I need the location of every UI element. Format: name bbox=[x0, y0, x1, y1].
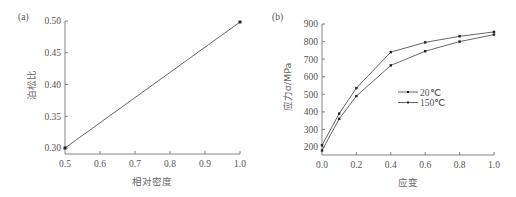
y-axis-title-b: 应力σ/MPa bbox=[282, 63, 293, 112]
x-tick-label: 0.8 bbox=[164, 159, 176, 169]
series-line-poisson bbox=[65, 22, 240, 148]
legend-label-150c: 150℃ bbox=[420, 98, 445, 108]
series-line-20c bbox=[322, 32, 494, 145]
x-tick-label: 0.9 bbox=[199, 159, 211, 169]
figure: (a) 0.30 0.35 0.40 0.45 0.50 0.5 0.6 0. bbox=[0, 0, 516, 197]
x-tick-label: 0.0 bbox=[316, 160, 328, 170]
y-tick-label: 900 bbox=[304, 19, 319, 29]
y-tick-label: 300 bbox=[304, 125, 319, 135]
y-ticks-a: 0.30 0.35 0.40 0.45 0.50 bbox=[44, 16, 68, 153]
y-tick-label: 500 bbox=[304, 90, 319, 100]
y-tick-label: 600 bbox=[304, 72, 319, 82]
x-tick-label: 0.6 bbox=[94, 159, 106, 169]
x-tick-label: 1.0 bbox=[234, 159, 246, 169]
y-tick-label: 200 bbox=[304, 142, 319, 152]
x-axis-title-b: 应变 bbox=[398, 177, 418, 188]
panel-label-a: (a) bbox=[18, 12, 29, 23]
x-tick-label: 0.5 bbox=[59, 159, 71, 169]
x-tick-label: 0.7 bbox=[129, 159, 141, 169]
x-axis-title-a: 相对密度 bbox=[132, 176, 172, 187]
y-tick-label: 0.50 bbox=[44, 16, 61, 26]
legend: 20℃ 150℃ bbox=[398, 88, 445, 109]
y-tick-label: 0.40 bbox=[44, 80, 61, 90]
legend-label-20c: 20℃ bbox=[420, 88, 441, 98]
series-markers-20c bbox=[321, 31, 495, 147]
y-tick-label: 0.45 bbox=[44, 48, 61, 58]
chart-b: (b) 200 300 400 500 600 700 800 900 bbox=[272, 12, 500, 188]
x-tick-label: 0.8 bbox=[454, 160, 466, 170]
chart-a: (a) 0.30 0.35 0.40 0.45 0.50 0.5 0.6 0. bbox=[18, 12, 246, 187]
x-tick-label: 0.4 bbox=[385, 160, 397, 170]
y-tick-label: 400 bbox=[304, 107, 319, 117]
data-marker bbox=[239, 21, 242, 24]
y-tick-label: 0.30 bbox=[44, 143, 61, 153]
x-tick-label: 1.0 bbox=[488, 160, 500, 170]
data-marker bbox=[64, 147, 67, 150]
y-axis-title-a: 泊松比 bbox=[26, 70, 37, 100]
y-tick-label: 800 bbox=[304, 37, 319, 47]
y-tick-label: 0.35 bbox=[44, 112, 61, 122]
panel-label-b: (b) bbox=[272, 12, 283, 23]
y-tick-label: 700 bbox=[304, 55, 319, 65]
x-tick-label: 0.2 bbox=[350, 160, 362, 170]
x-tick-label: 0.6 bbox=[419, 160, 431, 170]
